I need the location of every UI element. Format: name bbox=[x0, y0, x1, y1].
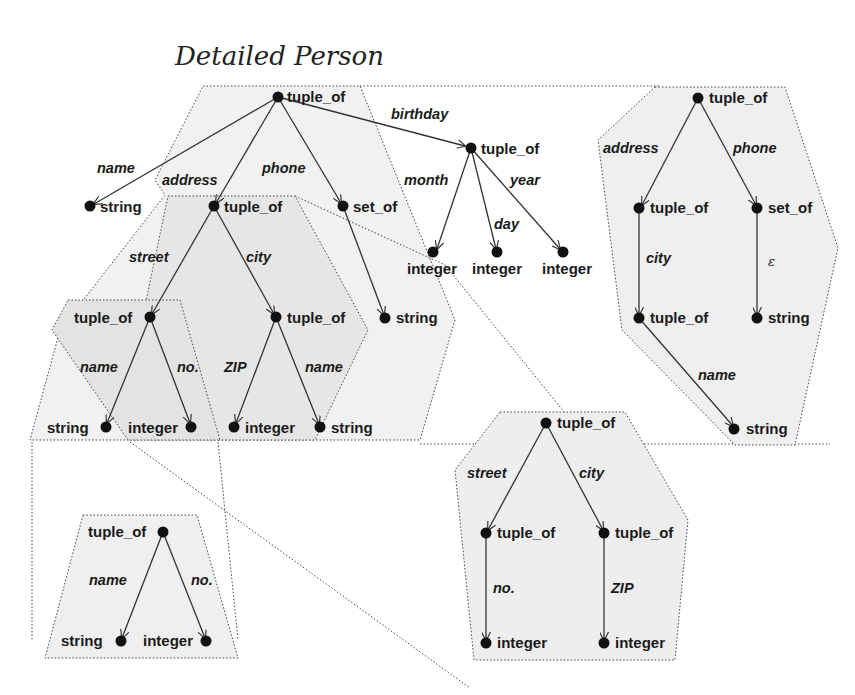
node-dot bbox=[752, 203, 763, 214]
node-label: tuple_of bbox=[650, 309, 709, 326]
node-label: string bbox=[746, 420, 788, 437]
node-label: integer bbox=[472, 260, 522, 277]
node-label: integer bbox=[497, 634, 547, 651]
node-dot bbox=[481, 528, 492, 539]
edge-label: name bbox=[80, 359, 118, 375]
node-label: tuple_of bbox=[88, 523, 147, 540]
edge-label: day bbox=[494, 216, 520, 232]
edge-label: year bbox=[509, 172, 541, 188]
node-dot bbox=[541, 418, 552, 429]
node-label: integer bbox=[128, 419, 178, 436]
node-dot bbox=[209, 201, 220, 212]
node-dot bbox=[380, 313, 391, 324]
node-label: tuple_of bbox=[650, 199, 709, 216]
edge-label: no. bbox=[177, 359, 199, 375]
node-label: string bbox=[768, 309, 810, 326]
edge-label: birthday bbox=[391, 106, 449, 122]
node-dot bbox=[599, 528, 610, 539]
edge-label: phone bbox=[261, 160, 306, 176]
node-dot bbox=[201, 636, 212, 647]
node-label: integer bbox=[143, 632, 193, 649]
node-dot bbox=[466, 143, 477, 154]
node-dot bbox=[634, 313, 645, 324]
edge-label: ε bbox=[768, 254, 775, 269]
node-dot bbox=[101, 422, 112, 433]
edge-label: ZIP bbox=[610, 580, 634, 596]
node-dot bbox=[145, 312, 156, 323]
node-label: string bbox=[396, 309, 438, 326]
edge-label: phone bbox=[732, 140, 777, 156]
edge-label: name bbox=[305, 359, 343, 375]
edge-label: no. bbox=[493, 580, 515, 596]
node-dot bbox=[229, 422, 240, 433]
edge-label: name bbox=[89, 572, 127, 588]
node-label: tuple_of bbox=[224, 198, 283, 215]
node-label: integer bbox=[407, 260, 457, 277]
node-label: integer bbox=[245, 419, 295, 436]
node-dot bbox=[85, 201, 96, 212]
edge-label: street bbox=[129, 249, 170, 265]
node-label: string bbox=[61, 632, 103, 649]
node-dot bbox=[693, 93, 704, 104]
node-dot bbox=[271, 312, 282, 323]
node-label: tuple_of bbox=[287, 88, 346, 105]
node-label: tuple_of bbox=[709, 89, 768, 106]
node-dot bbox=[634, 203, 645, 214]
node-label: string bbox=[331, 419, 373, 436]
node-label: set_of bbox=[768, 199, 813, 216]
node-label: set_of bbox=[353, 198, 398, 215]
node-dot bbox=[729, 424, 740, 435]
edge-label: month bbox=[404, 172, 448, 188]
edge-label: street bbox=[467, 465, 508, 481]
node-label: tuple_of bbox=[74, 309, 133, 326]
node-dot bbox=[428, 247, 439, 258]
edge-label: city bbox=[646, 250, 672, 266]
node-dot bbox=[481, 638, 492, 649]
node-dot bbox=[752, 313, 763, 324]
node-label: tuple_of bbox=[557, 414, 616, 431]
node-dot bbox=[338, 201, 349, 212]
node-label: tuple_of bbox=[615, 524, 674, 541]
node-dot bbox=[558, 247, 569, 258]
edge-label: name bbox=[97, 160, 135, 176]
node-label: string bbox=[47, 419, 89, 436]
node-dot bbox=[599, 638, 610, 649]
node-label: integer bbox=[615, 634, 665, 651]
node-label: string bbox=[100, 198, 142, 215]
node-dot bbox=[158, 527, 169, 538]
node-label: tuple_of bbox=[481, 140, 540, 157]
edge-label: address bbox=[162, 172, 218, 188]
node-label: integer bbox=[542, 260, 592, 277]
edge-label: name bbox=[698, 367, 736, 383]
node-dot bbox=[116, 636, 127, 647]
edge-label: no. bbox=[191, 572, 213, 588]
edge-label: ZIP bbox=[223, 359, 247, 375]
type-tree-diagram: Detailed Person bbox=[0, 0, 855, 695]
node-dot bbox=[315, 422, 326, 433]
edge-label: city bbox=[579, 465, 605, 481]
node-label: tuple_of bbox=[497, 524, 556, 541]
node-dot bbox=[186, 422, 197, 433]
node-dot bbox=[492, 247, 503, 258]
diagram-title: Detailed Person bbox=[174, 41, 384, 71]
node-dot bbox=[273, 92, 284, 103]
node-label: tuple_of bbox=[287, 309, 346, 326]
edge-label: address bbox=[603, 140, 659, 156]
edge-label: city bbox=[246, 249, 272, 265]
